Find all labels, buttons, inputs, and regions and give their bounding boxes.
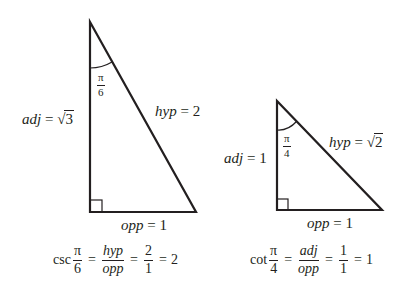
opp-label-left: opp = 1 [121, 218, 167, 233]
right-angle-marker [90, 200, 102, 212]
hyp-label-right: hyp = √2 [329, 135, 383, 150]
sqrt-expression: √2 [367, 135, 384, 150]
angle-arc [90, 62, 112, 68]
opp-label-right: opp = 1 [307, 216, 353, 231]
angle-arc [277, 121, 297, 130]
formula-csc: csc π6 = hypopp = 21 = 2 [53, 244, 178, 276]
sqrt-expression: √3 [57, 112, 74, 127]
formula-cot: cot π4 = adjopp = 11 = 1 [250, 244, 373, 276]
angle-label-left: π 6 [95, 72, 107, 98]
adj-label-left: adj = √3 [22, 112, 74, 127]
angle-label-right: π 4 [281, 133, 293, 159]
hyp-label-left: hyp = 2 [155, 104, 200, 119]
right-angle-marker [277, 199, 288, 210]
adj-label-right: adj = 1 [224, 151, 267, 166]
triangle-right [277, 101, 382, 210]
